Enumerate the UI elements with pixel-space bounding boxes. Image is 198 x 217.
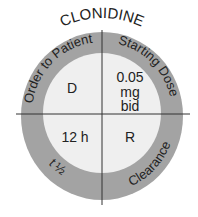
drug-title: CLONIDINE — [57, 4, 146, 30]
quadrant-dose-value-amount: 0.05 — [116, 69, 143, 85]
quadrant-half-life-value: 12 h — [61, 129, 88, 145]
quadrant-clearance-value: R — [125, 129, 135, 145]
drug-wheel-diagram: CLONIDINE Order to Patient Starting Dose… — [0, 0, 198, 217]
quadrant-dose-value-frequency: bid — [121, 98, 140, 114]
quadrant-order-value: D — [67, 80, 77, 96]
